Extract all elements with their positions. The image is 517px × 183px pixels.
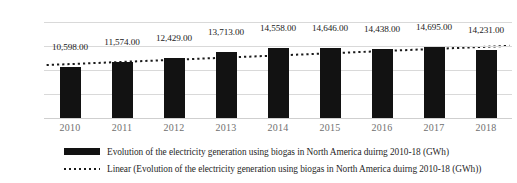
x-axis-tick-label: 2014	[268, 122, 289, 133]
plot-area: 0500010000150002000010,598.00201011,574.…	[44, 22, 512, 118]
bar-2011	[112, 62, 133, 118]
x-axis-tick-label: 2013	[216, 122, 237, 133]
chart-legend: Evolution of the electricity generation …	[0, 143, 517, 177]
trendline-swatch-icon	[64, 165, 100, 172]
bar-2017	[424, 47, 445, 118]
bar-2016	[372, 49, 393, 118]
bar-2014	[268, 48, 289, 118]
legend-item-trendline: Linear (Evolution of the electricity gen…	[0, 160, 517, 177]
bar-series-swatch-icon	[64, 148, 100, 155]
legend-label-trendline: Linear (Evolution of the electricity gen…	[107, 164, 481, 174]
gridline	[44, 118, 512, 119]
bar-2018	[476, 50, 497, 118]
legend-item-bars: Evolution of the electricity generation …	[0, 143, 517, 160]
x-axis-tick-label: 2015	[320, 122, 341, 133]
bar-value-label: 10,598.00	[52, 42, 88, 52]
x-axis-tick-label: 2011	[112, 122, 132, 133]
bar-2013	[216, 52, 237, 118]
x-axis-tick-label: 2018	[476, 122, 497, 133]
x-axis-tick-label: 2017	[424, 122, 445, 133]
bar-value-label: 14,438.00	[364, 24, 400, 34]
legend-label-bars: Evolution of the electricity generation …	[107, 147, 449, 157]
bar-value-label: 14,558.00	[260, 23, 296, 33]
bar-value-label: 14,695.00	[416, 22, 452, 32]
chart-figure: 0500010000150002000010,598.00201011,574.…	[0, 0, 517, 183]
bar-value-label: 14,231.00	[468, 25, 504, 35]
bar-value-label: 13,713.00	[208, 27, 244, 37]
bar-2010	[60, 67, 81, 118]
x-axis-tick-label: 2016	[372, 122, 393, 133]
bar-value-label: 14,646.00	[312, 23, 348, 33]
bar-2015	[320, 48, 341, 118]
bar-2012	[164, 58, 185, 118]
x-axis-tick-label: 2012	[164, 122, 185, 133]
bar-value-label: 12,429.00	[156, 33, 192, 43]
x-axis-tick-label: 2010	[60, 122, 81, 133]
bar-value-label: 11,574.00	[104, 37, 140, 47]
